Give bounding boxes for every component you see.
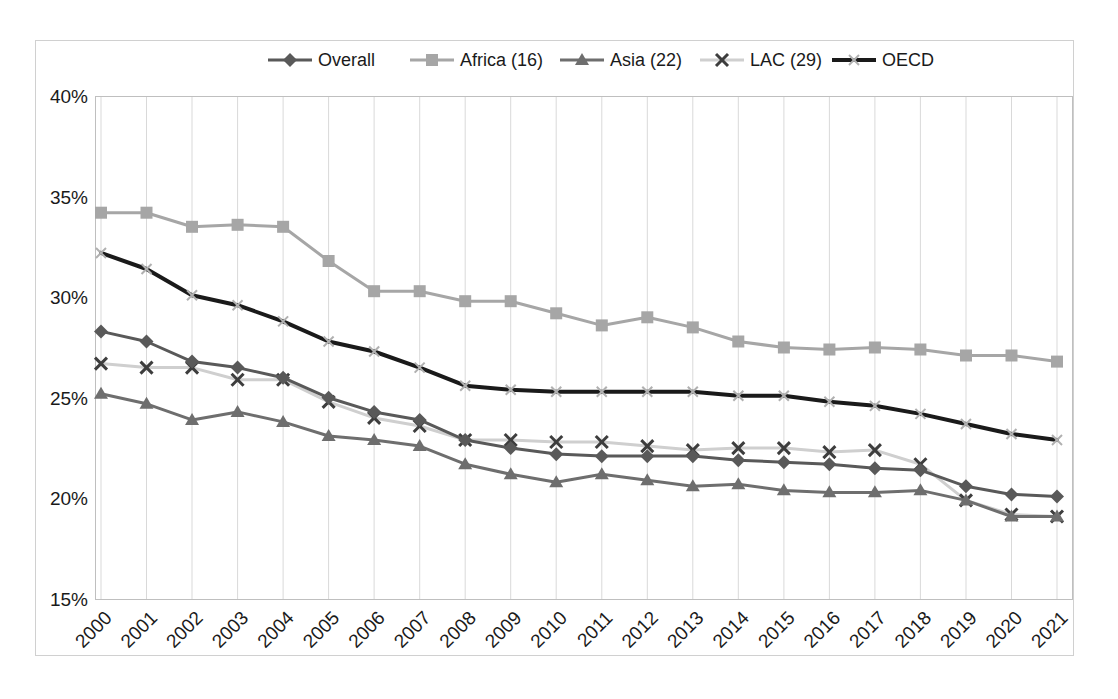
data-point-marker: [778, 342, 790, 354]
data-point-marker: [1006, 350, 1018, 362]
data-point-marker: [323, 255, 335, 267]
data-point-marker: [459, 295, 471, 307]
data-point-marker: [141, 207, 153, 219]
data-point-marker: [960, 350, 972, 362]
data-point-marker: [732, 336, 744, 348]
y-axis-tick-label: 40%: [50, 86, 88, 107]
legend-label: Asia (22): [610, 50, 682, 70]
data-point-marker: [687, 321, 699, 333]
data-point-marker: [596, 319, 608, 331]
data-point-marker: [641, 311, 653, 323]
legend-label: LAC (29): [750, 50, 822, 70]
data-point-marker: [277, 221, 289, 233]
legend-label: OECD: [882, 50, 934, 70]
data-point-marker: [95, 207, 107, 219]
y-axis-tick-label: 30%: [50, 287, 88, 308]
legend-label: Overall: [318, 50, 375, 70]
data-point-marker: [232, 219, 244, 231]
data-point-marker: [869, 342, 881, 354]
data-point-marker: [414, 285, 426, 297]
data-point-marker: [368, 285, 380, 297]
data-point-marker: [426, 54, 438, 66]
data-point-marker: [550, 307, 562, 319]
chart-container: 15%20%25%30%35%40% 200020012002200320042…: [0, 0, 1118, 699]
line-chart: 15%20%25%30%35%40% 200020012002200320042…: [0, 0, 1118, 699]
y-axis-tick-label: 35%: [50, 187, 88, 208]
data-point-marker: [823, 344, 835, 356]
y-axis-tick-label: 20%: [50, 488, 88, 509]
data-point-marker: [1051, 356, 1063, 368]
data-point-marker: [914, 344, 926, 356]
data-point-marker: [186, 221, 198, 233]
y-axis-tick-label: 25%: [50, 388, 88, 409]
data-point-marker: [505, 295, 517, 307]
y-axis-tick-label: 15%: [50, 589, 88, 610]
legend-label: Africa (16): [460, 50, 543, 70]
